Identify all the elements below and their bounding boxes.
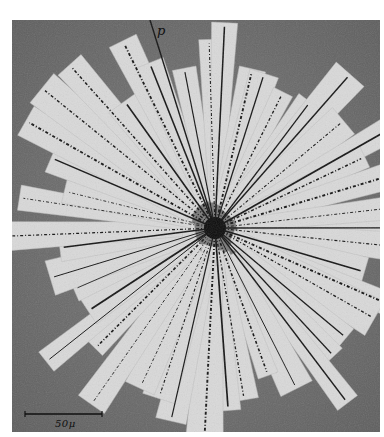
micrograph-photo: p 50μ [12,20,380,432]
scale-bar-label: 50μ [55,418,76,429]
track-label-p: p [157,23,165,38]
radial-tracks-mosaic [12,20,380,432]
emulsion-star-figure: p 50μ [0,0,384,437]
